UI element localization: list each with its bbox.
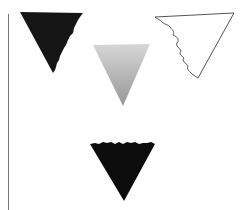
triangle-top-right-shape — [155, 13, 234, 78]
triangle-bottom-shape — [90, 142, 155, 201]
triangles-illustration — [0, 0, 247, 210]
triangle-center-shape — [93, 44, 150, 106]
figure-canvas — [0, 0, 247, 210]
triangle-top-left-shape — [20, 12, 83, 73]
